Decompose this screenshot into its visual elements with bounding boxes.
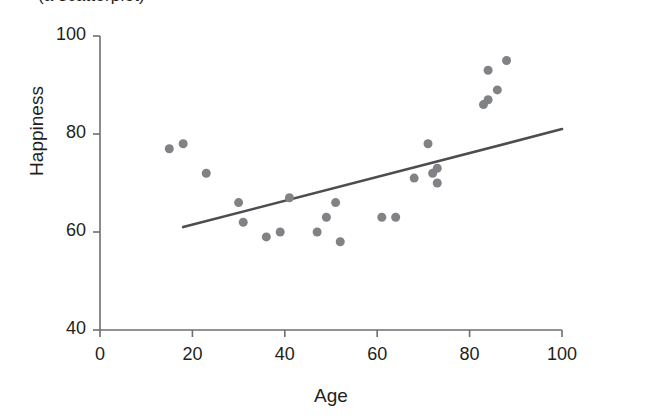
data-point (179, 139, 188, 148)
scatterplot-figure: (a scatterplot) Happiness Age 4060801000… (0, 0, 659, 419)
data-point (433, 164, 442, 173)
data-point (313, 228, 322, 237)
data-point (239, 218, 248, 227)
data-point (484, 95, 493, 104)
data-point (336, 237, 345, 246)
data-point (331, 198, 340, 207)
data-point (377, 213, 386, 222)
data-point (202, 169, 211, 178)
data-point (165, 144, 174, 153)
data-point (276, 228, 285, 237)
plot-canvas (0, 0, 659, 419)
data-point (484, 66, 493, 75)
data-point (285, 193, 294, 202)
data-point (424, 139, 433, 148)
data-point (262, 232, 271, 241)
axes (93, 36, 562, 337)
data-point (234, 198, 243, 207)
data-point (433, 179, 442, 188)
data-point (391, 213, 400, 222)
trend-line (183, 129, 562, 227)
data-point (493, 85, 502, 94)
trend-line-segment (183, 129, 562, 227)
data-point (502, 56, 511, 65)
data-point (322, 213, 331, 222)
data-point (410, 174, 419, 183)
